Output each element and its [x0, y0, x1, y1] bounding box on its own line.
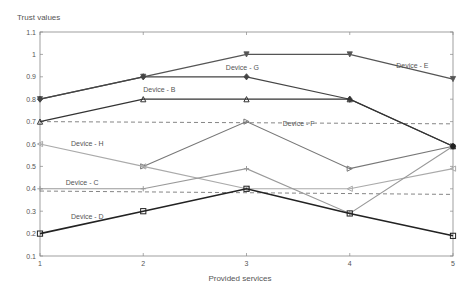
series-label: Device - F — [283, 120, 315, 127]
y-tick-label: 0.3 — [26, 208, 36, 215]
y-tick-label: 0.4 — [26, 185, 36, 192]
y-axis-title: Trust values — [17, 13, 60, 22]
y-tick-label: 1.1 — [26, 29, 36, 36]
diamond-marker — [244, 74, 249, 80]
y-tick-label: 0.6 — [26, 141, 36, 148]
y-tick-label: 0.8 — [26, 96, 36, 103]
series-line — [40, 77, 453, 146]
series-line — [143, 122, 453, 169]
x-axis-title: Provided services — [208, 274, 271, 283]
series-device-g — [37, 74, 455, 150]
y-tick-label: 1 — [32, 51, 36, 58]
series-label: Device - D — [71, 213, 104, 220]
series-label: Device - H — [71, 140, 104, 147]
series-label: Device - G — [226, 64, 259, 71]
series-line — [40, 146, 453, 213]
convergence-point-marker — [450, 143, 456, 149]
x-tick-label: 1 — [38, 260, 42, 267]
x-tick-label: 4 — [348, 260, 352, 267]
line-chart: 0.10.20.30.40.50.60.70.80.911.1 12345 De… — [0, 0, 474, 299]
series-labels: Device - EDevice - GDevice - BDevice - F… — [66, 62, 429, 220]
x-tick-label: 3 — [245, 260, 249, 267]
x-tick-label: 2 — [141, 260, 145, 267]
series-label: Device - C — [66, 179, 99, 186]
x-tick-label: 5 — [451, 260, 455, 267]
series-label: Device - E — [396, 62, 429, 69]
y-tick-label: 0.2 — [26, 230, 36, 237]
y-tick-label: 0.7 — [26, 118, 36, 125]
y-tick-label: 0.1 — [26, 253, 36, 260]
series-label: Device - B — [143, 86, 176, 93]
y-tick-label: 0.9 — [26, 73, 36, 80]
y-tick-label: 0.5 — [26, 163, 36, 170]
